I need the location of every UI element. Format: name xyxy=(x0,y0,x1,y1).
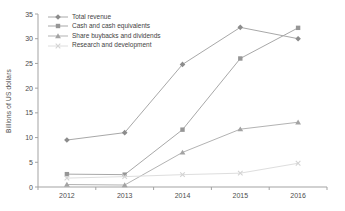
x-tick-label: 2014 xyxy=(175,192,191,199)
legend-label: Total revenue xyxy=(72,14,111,21)
y-tick-label: 25 xyxy=(25,60,33,67)
x-tick-label: 2016 xyxy=(290,192,306,199)
x-tick-label: 2012 xyxy=(59,192,75,199)
diamond-marker-icon xyxy=(48,13,68,21)
square-marker-icon xyxy=(48,22,68,30)
x-tick-label: 2015 xyxy=(233,192,249,199)
legend-label: Cash and cash equivalents xyxy=(72,23,150,30)
y-tick-label: 15 xyxy=(25,109,33,116)
y-tick-label: 5 xyxy=(29,159,33,166)
legend-item-cash-and-cash-equivalents: Cash and cash equivalents xyxy=(48,22,161,32)
legend-item-research-and-development: Research and development xyxy=(48,41,161,51)
legend-label: Share buybacks and dividends xyxy=(72,33,161,40)
y-tick-label: 0 xyxy=(29,184,33,191)
x-tick-label: 2013 xyxy=(117,192,133,199)
chart-figure: 0510152025303520122013201420152016 Billi… xyxy=(0,0,345,211)
triangle-marker-icon xyxy=(48,32,68,40)
y-tick-label: 10 xyxy=(25,134,33,141)
y-axis-title: Billions of US dollars xyxy=(5,69,12,133)
y-tick-label: 35 xyxy=(25,11,33,18)
legend-item-share-buybacks-and-dividends: Share buybacks and dividends xyxy=(48,31,161,41)
legend: Total revenue Cash and cash equivalents … xyxy=(48,12,161,50)
series-research-and-development xyxy=(65,161,301,180)
x-marker-icon xyxy=(48,42,68,50)
y-tick-label: 30 xyxy=(25,35,33,42)
legend-label: Research and development xyxy=(72,42,152,49)
y-tick-label: 20 xyxy=(25,85,33,92)
legend-item-total-revenue: Total revenue xyxy=(48,12,161,22)
